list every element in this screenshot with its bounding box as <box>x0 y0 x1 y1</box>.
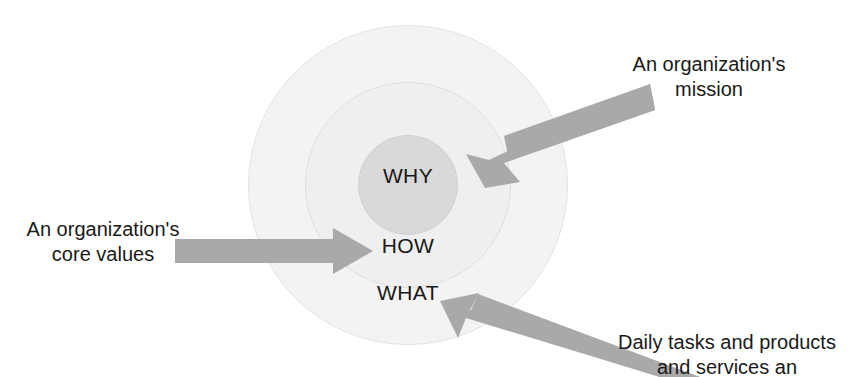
clipped-text-remnant: (only descenders visible) <box>0 0 858 9</box>
circle-label-how: HOW <box>348 234 468 258</box>
callout-mission: An organization's mission <box>594 52 824 102</box>
callout-core-values: An organization's core values <box>8 217 198 267</box>
callout-daily-tasks: Daily tasks and products and services an <box>596 330 858 377</box>
circle-label-what: WHAT <box>343 281 473 305</box>
figure-canvas: (only descenders visible) WHY HOW WHAT A… <box>0 0 858 377</box>
circle-label-why: WHY <box>358 164 458 188</box>
